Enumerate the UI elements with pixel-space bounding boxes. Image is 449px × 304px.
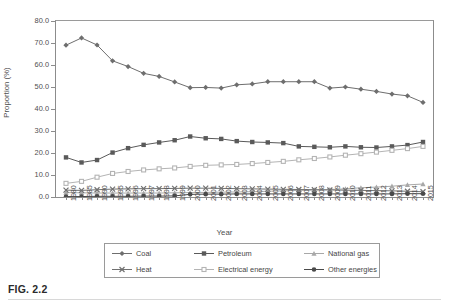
y-tick-mark <box>51 131 55 132</box>
x-tick-label: 2005 <box>271 185 280 201</box>
legend-swatch-square-icon <box>193 249 215 258</box>
data-point-diamond <box>203 85 208 90</box>
data-point-square <box>79 160 83 164</box>
data-point-circle <box>312 267 317 272</box>
data-point-diamond <box>281 79 286 84</box>
x-tick-label: 1997 <box>147 185 156 201</box>
data-point-diamond <box>219 86 224 91</box>
data-point-diamond <box>157 74 162 79</box>
data-point-square-open <box>421 144 425 148</box>
data-point-circle <box>312 192 317 197</box>
data-point-square-open <box>312 157 316 161</box>
data-point-diamond <box>63 43 68 48</box>
legend-item-heat[interactable]: Heat <box>111 261 193 277</box>
legend-item-electrical-energy[interactable]: Electrical energy <box>193 261 303 277</box>
legend-label: Other energies <box>328 265 377 274</box>
x-tick-label: 2004 <box>255 185 264 201</box>
data-point-square <box>141 143 145 147</box>
data-point-square <box>297 144 301 148</box>
data-point-circle <box>188 192 193 197</box>
data-point-circle <box>421 191 426 196</box>
data-point-diamond <box>125 64 130 69</box>
x-tick-mark <box>345 197 346 200</box>
data-point-square-open <box>142 168 146 172</box>
data-point-square <box>64 155 68 159</box>
data-point-square <box>95 158 99 162</box>
legend-item-other-energies[interactable]: Other energies <box>303 261 387 277</box>
legend-swatch-circle-icon <box>303 265 325 274</box>
data-point-square <box>250 140 254 144</box>
x-tick-label: 1985 <box>85 185 94 201</box>
data-point-circle <box>281 192 286 197</box>
data-point-diamond <box>389 91 394 96</box>
data-point-diamond <box>79 35 84 40</box>
y-tick-mark <box>51 175 55 176</box>
x-tick-label: 1980 <box>69 185 78 201</box>
x-tick-mark <box>144 197 145 200</box>
x-tick-label: 1998 <box>162 185 171 201</box>
x-tick-mark <box>283 197 284 200</box>
x-tick-label: 2011 <box>364 186 373 201</box>
x-tick-label: 1990 <box>100 185 109 201</box>
legend-swatch-triangle-icon <box>303 249 325 258</box>
data-point-square-open <box>64 181 68 185</box>
x-tick-mark <box>97 197 98 200</box>
data-point-circle <box>219 192 224 197</box>
data-point-square-open <box>95 175 99 179</box>
legend-swatch-cross-icon <box>111 265 133 274</box>
data-point-diamond <box>188 85 193 90</box>
y-tick-label: 60.0 <box>19 61 49 68</box>
data-point-diamond <box>296 79 301 84</box>
data-point-square <box>203 136 207 140</box>
x-tick-label: 2012 <box>379 185 388 201</box>
data-point-square-open <box>202 267 206 271</box>
legend-item-national-gas[interactable]: National gas <box>303 245 387 261</box>
legend-item-petroleum[interactable]: Petroleum <box>193 245 303 261</box>
legend-label: Coal <box>136 249 151 258</box>
legend-label: Petroleum <box>218 249 252 258</box>
x-tick-label: 2008 <box>317 185 326 201</box>
series-petroleum <box>64 134 425 164</box>
x-tick-label: 2001 <box>209 185 218 201</box>
data-point-diamond <box>374 89 379 94</box>
data-point-circle <box>234 192 239 197</box>
data-point-diamond <box>405 93 410 98</box>
data-point-square <box>126 146 130 150</box>
x-tick-mark <box>376 197 377 200</box>
data-point-square <box>110 150 114 154</box>
legend-label: Electrical energy <box>218 265 273 274</box>
series-coal <box>63 35 425 105</box>
data-point-square-open <box>204 163 208 167</box>
data-point-diamond <box>312 79 317 84</box>
data-point-diamond <box>265 79 270 84</box>
data-point-square-open <box>219 163 223 167</box>
y-tick-label: 70.0 <box>19 39 49 46</box>
x-tick-label: 2007 <box>302 185 311 201</box>
x-tick-mark <box>159 197 160 200</box>
legend-label: Heat <box>136 265 152 274</box>
series-line <box>66 146 423 183</box>
y-tick-label: 40.0 <box>19 105 49 112</box>
y-tick-mark <box>51 65 55 66</box>
y-tick-label: 0.0 <box>19 193 49 200</box>
x-tick-mark <box>175 197 176 200</box>
x-tick-label: 2009 <box>333 185 342 201</box>
data-point-square-open <box>80 179 84 183</box>
data-point-diamond <box>327 86 332 91</box>
caption-divider <box>8 299 441 300</box>
x-tick-label: 2000 <box>193 185 202 201</box>
data-point-square <box>235 139 239 143</box>
x-tick-mark <box>423 197 424 200</box>
y-tick-mark <box>51 43 55 44</box>
y-axis-label: Proportion (%) <box>2 48 11 138</box>
y-tick-label: 10.0 <box>19 171 49 178</box>
legend-item-coal[interactable]: Coal <box>111 245 193 261</box>
data-point-diamond <box>250 81 255 86</box>
x-tick-mark <box>206 197 207 200</box>
data-point-circle <box>390 192 395 197</box>
data-point-square <box>328 145 332 149</box>
data-point-square <box>172 138 176 142</box>
x-tick-mark <box>128 197 129 200</box>
data-point-square <box>157 140 161 144</box>
y-tick-mark <box>51 153 55 154</box>
